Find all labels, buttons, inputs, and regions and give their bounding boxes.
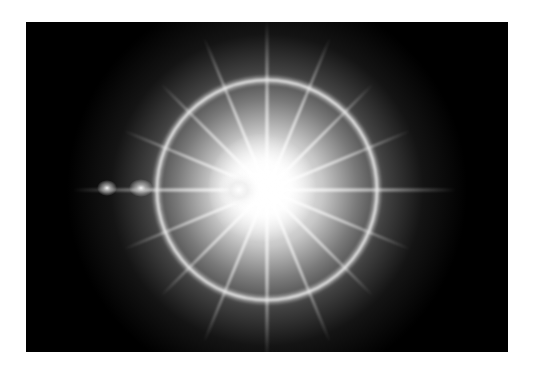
- flare-spot: [97, 180, 117, 196]
- flare-graphic: [26, 22, 508, 352]
- lens-flare-image: Lens flare starburst with halo ring on b…: [26, 22, 508, 352]
- flare-spot: [129, 179, 153, 197]
